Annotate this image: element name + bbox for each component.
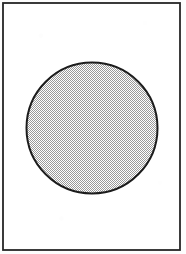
shape-layer bbox=[0, 0, 186, 254]
filled-circle bbox=[27, 63, 158, 194]
figure-canvas bbox=[0, 0, 186, 254]
